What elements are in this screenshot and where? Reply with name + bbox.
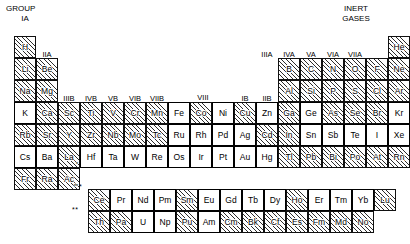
element-cell-o[interactable]: O: [344, 58, 366, 80]
element-cell-au[interactable]: Au: [234, 146, 256, 168]
element-cell-se[interactable]: Se: [344, 102, 366, 124]
element-cell-yb[interactable]: Yb: [352, 189, 374, 211]
element-cell-cf[interactable]: Cf: [264, 211, 286, 233]
element-cell-ce[interactable]: Ce: [88, 189, 110, 211]
element-cell-er[interactable]: Er: [308, 189, 330, 211]
element-cell-i[interactable]: I: [366, 124, 388, 146]
element-cell-nd[interactable]: Nd: [132, 189, 154, 211]
element-cell-ca[interactable]: Ca: [36, 102, 58, 124]
element-cell-np[interactable]: Np: [154, 211, 176, 233]
element-cell-s[interactable]: S: [344, 80, 366, 102]
element-cell-br[interactable]: Br: [366, 102, 388, 124]
element-cell-be[interactable]: Be: [36, 58, 58, 80]
element-cell-n[interactable]: N: [322, 58, 344, 80]
element-cell-mo[interactable]: Mo: [124, 124, 146, 146]
element-cell-p[interactable]: P: [322, 80, 344, 102]
element-cell-mn[interactable]: Mn: [146, 102, 168, 124]
element-cell-zn[interactable]: Zn: [256, 102, 278, 124]
element-cell-ra[interactable]: Ra: [36, 168, 58, 190]
element-cell-fe[interactable]: Fe: [168, 102, 190, 124]
element-cell-zr[interactable]: Zr: [80, 124, 102, 146]
element-cell-bk[interactable]: Bk: [242, 211, 264, 233]
element-cell-ar[interactable]: Ar: [388, 80, 410, 102]
element-cell-tl[interactable]: Tl: [278, 146, 300, 168]
element-cell-sc[interactable]: Sc: [58, 102, 80, 124]
element-cell-te[interactable]: Te: [344, 124, 366, 146]
element-cell-he[interactable]: He: [388, 36, 410, 58]
element-cell-kr[interactable]: Kr: [388, 102, 410, 124]
element-cell-ge[interactable]: Ge: [300, 102, 322, 124]
element-cell-cr[interactable]: Cr: [124, 102, 146, 124]
element-cell-th[interactable]: Th: [88, 211, 110, 233]
element-cell-no[interactable]: No: [352, 211, 374, 233]
element-cell-c[interactable]: C: [300, 58, 322, 80]
element-cell-cl[interactable]: Cl: [366, 80, 388, 102]
element-cell-eu[interactable]: Eu: [198, 189, 220, 211]
element-cell-sn[interactable]: Sn: [300, 124, 322, 146]
element-cell-ti[interactable]: Ti: [80, 102, 102, 124]
element-cell-f[interactable]: F: [366, 58, 388, 80]
element-cell-ta[interactable]: Ta: [102, 146, 124, 168]
element-cell-al[interactable]: Al: [278, 80, 300, 102]
element-cell-bi[interactable]: Bi: [322, 146, 344, 168]
element-cell-rh[interactable]: Rh: [190, 124, 212, 146]
element-cell-at[interactable]: At: [366, 146, 388, 168]
element-cell-ga[interactable]: Ga: [278, 102, 300, 124]
element-cell-dy[interactable]: Dy: [264, 189, 286, 211]
element-cell-xe[interactable]: Xe: [388, 124, 410, 146]
element-cell-cd[interactable]: Cd: [256, 124, 278, 146]
element-cell-rn[interactable]: Rn: [388, 146, 410, 168]
element-cell-w[interactable]: W: [124, 146, 146, 168]
element-cell-u[interactable]: U: [132, 211, 154, 233]
element-cell-pu[interactable]: Pu: [176, 211, 198, 233]
element-cell-k[interactable]: K: [14, 102, 36, 124]
element-cell-ru[interactable]: Ru: [168, 124, 190, 146]
element-cell-es[interactable]: Es: [286, 211, 308, 233]
element-cell-na[interactable]: Na: [14, 80, 36, 102]
element-cell-as[interactable]: As: [322, 102, 344, 124]
element-cell-y[interactable]: Y: [58, 124, 80, 146]
element-cell-fr[interactable]: Fr: [14, 168, 36, 190]
element-cell-cs[interactable]: Cs: [14, 146, 36, 168]
element-cell-re[interactable]: Re: [146, 146, 168, 168]
element-cell-ba[interactable]: Ba: [36, 146, 58, 168]
element-cell-b[interactable]: B: [278, 58, 300, 80]
element-cell-ag[interactable]: Ag: [234, 124, 256, 146]
element-cell-li[interactable]: Li: [14, 58, 36, 80]
element-cell-lu[interactable]: Lu: [374, 189, 396, 211]
element-cell-hg[interactable]: Hg: [256, 146, 278, 168]
element-cell-pa[interactable]: Pa: [110, 211, 132, 233]
element-cell-ac[interactable]: Ac**: [58, 168, 80, 190]
element-cell-pm[interactable]: Pm: [154, 189, 176, 211]
element-cell-sm[interactable]: Sm: [176, 189, 198, 211]
element-cell-md[interactable]: Md: [330, 211, 352, 233]
element-cell-si[interactable]: Si: [300, 80, 322, 102]
element-cell-rb[interactable]: Rb: [14, 124, 36, 146]
element-cell-sb[interactable]: Sb: [322, 124, 344, 146]
element-cell-pb[interactable]: Pb: [300, 146, 322, 168]
element-cell-ho[interactable]: Ho: [286, 189, 308, 211]
element-cell-hf[interactable]: Hf: [80, 146, 102, 168]
element-cell-tm[interactable]: Tm: [330, 189, 352, 211]
element-cell-gd[interactable]: Gd: [220, 189, 242, 211]
element-cell-mg[interactable]: Mg: [36, 80, 58, 102]
element-cell-po[interactable]: Po: [344, 146, 366, 168]
element-cell-pr[interactable]: Pr: [110, 189, 132, 211]
element-cell-ir[interactable]: Ir: [190, 146, 212, 168]
element-cell-cm[interactable]: Cm: [220, 211, 242, 233]
element-cell-am[interactable]: Am: [198, 211, 220, 233]
element-cell-tc[interactable]: Tc: [146, 124, 168, 146]
element-cell-fm[interactable]: Fm: [308, 211, 330, 233]
element-cell-nb[interactable]: Nb: [102, 124, 124, 146]
element-cell-os[interactable]: Os: [168, 146, 190, 168]
element-cell-pt[interactable]: Pt: [212, 146, 234, 168]
element-cell-ni[interactable]: Ni: [212, 102, 234, 124]
element-cell-h[interactable]: H: [14, 36, 36, 58]
element-cell-v[interactable]: V: [102, 102, 124, 124]
element-cell-sr[interactable]: Sr: [36, 124, 58, 146]
element-cell-tb[interactable]: Tb: [242, 189, 264, 211]
element-cell-co[interactable]: Co: [190, 102, 212, 124]
element-cell-ne[interactable]: Ne: [388, 58, 410, 80]
element-cell-cu[interactable]: Cu: [234, 102, 256, 124]
element-cell-la[interactable]: La*: [58, 146, 80, 168]
